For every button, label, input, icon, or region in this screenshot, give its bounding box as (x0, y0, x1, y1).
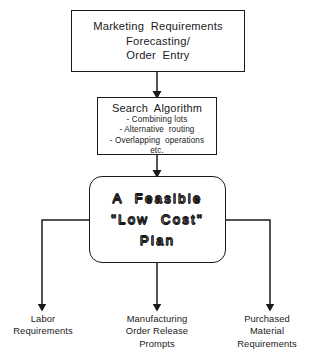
output-purchased-line-1: Purchased (223, 313, 311, 325)
output-purchased-line-2: Material (223, 325, 311, 337)
output-label-purchased-material-requirements: Purchased Material Requirements (223, 313, 311, 350)
node-marketing-line-1: Marketing Requirements (93, 19, 223, 34)
output-purchased-line-3: Requirements (223, 338, 311, 350)
node-marketing-line-3: Order Entry (126, 48, 189, 63)
output-label-labor-requirements: Labor Requirements (0, 313, 86, 338)
output-manufacturing-line-3: Prompts (107, 338, 207, 350)
node-feasible-low-cost-plan: A Feasible "Low Cost" Plan (89, 176, 226, 263)
output-labor-line-2: Requirements (0, 325, 86, 337)
node-plan-line-3: Plan (140, 231, 175, 250)
node-marketing-requirements: Marketing Requirements Forecasting/ Orde… (71, 10, 245, 72)
node-search-bullet-4: etc. (150, 146, 164, 156)
output-manufacturing-line-1: Manufacturing (107, 313, 207, 325)
node-search-title: Search Algorithm (112, 101, 202, 115)
node-plan-line-1: A Feasible (113, 189, 203, 208)
node-plan-line-2: "Low Cost" (111, 210, 204, 229)
node-search-bullet-2: - Alternative routing (119, 125, 194, 135)
output-label-manufacturing-order-release-prompts: Manufacturing Order Release Prompts (107, 313, 207, 350)
output-manufacturing-line-2: Order Release (107, 325, 207, 337)
output-labor-line-1: Labor (0, 313, 86, 325)
node-marketing-line-2: Forecasting/ (126, 34, 190, 49)
flowchart-diagram: Marketing Requirements Forecasting/ Orde… (0, 0, 311, 355)
node-search-bullet-3: - Overlapping operations (110, 136, 204, 146)
connector-plan-to-labor (42, 220, 89, 305)
node-search-algorithm: Search Algorithm - Combining lots - Alte… (97, 97, 217, 155)
node-search-bullet-1: - Combining lots (127, 115, 188, 125)
connector-plan-to-purchased (226, 220, 270, 305)
